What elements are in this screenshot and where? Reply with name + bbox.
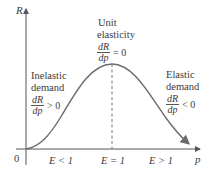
tick-e-equal-1: E = 1 [101, 155, 125, 166]
derivative-relation: < 0 [182, 99, 195, 110]
y-axis-label: R [16, 5, 23, 16]
inelastic-derivative: dRdp > 0 [31, 95, 60, 116]
elastic-label-line2: demand [166, 81, 199, 92]
derivative-relation: = 0 [113, 47, 126, 58]
unit-label-line1: Unit [98, 17, 117, 28]
unit-derivative: dRdp = 0 [97, 42, 126, 63]
unit-label-line2: elasticity [97, 29, 135, 40]
x-axis-label: p [195, 154, 201, 165]
derivative-denominator: dp [167, 105, 179, 115]
derivative-denominator: dp [98, 53, 110, 63]
derivative-denominator: dp [32, 106, 44, 116]
inelastic-label-line2: demand [31, 82, 64, 93]
elastic-derivative: dRdp < 0 [166, 94, 195, 115]
tick-e-greater-1: E > 1 [149, 155, 173, 166]
origin-label: 0 [14, 153, 19, 164]
elastic-label-line1: Elastic [166, 69, 195, 80]
tick-e-less-1: E < 1 [49, 155, 73, 166]
inelastic-label-line1: Inelastic [31, 70, 67, 81]
derivative-relation: > 0 [47, 100, 60, 111]
